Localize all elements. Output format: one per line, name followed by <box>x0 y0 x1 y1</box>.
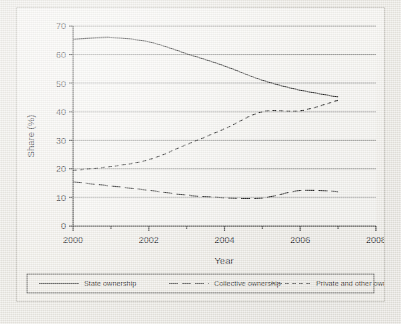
legend-label: Collective ownership <box>214 279 281 288</box>
y-tick-label: 40 <box>56 107 66 117</box>
y-axis-tick-labels: 010203040506070 <box>56 21 66 231</box>
plot-background <box>73 26 376 226</box>
x-axis-title: Year <box>214 255 233 266</box>
y-tick-label: 20 <box>56 164 66 174</box>
legend-label: Private and other ownerships <box>316 279 384 288</box>
x-tick-label: 2000 <box>63 235 83 245</box>
y-tick-label: 50 <box>56 79 66 89</box>
x-tick-label: 2008 <box>366 235 384 245</box>
y-axis-ticks <box>69 26 73 226</box>
x-tick-label: 2006 <box>290 235 310 245</box>
x-axis-ticks <box>73 226 376 231</box>
y-tick-label: 30 <box>56 136 66 146</box>
y-tick-label: 60 <box>56 50 66 60</box>
figure-frame: 010203040506070 20002002200420062008 Sha… <box>16 7 385 302</box>
x-tick-label: 2004 <box>214 235 234 245</box>
x-tick-label: 2002 <box>139 235 159 245</box>
line-chart: 010203040506070 20002002200420062008 Sha… <box>17 8 384 301</box>
y-tick-label: 70 <box>56 21 66 31</box>
y-axis-title: Share (%) <box>25 115 36 158</box>
x-axis-tick-labels: 20002002200420062008 <box>63 235 384 245</box>
y-tick-label: 0 <box>61 221 66 231</box>
legend-items: State ownershipCollective ownershipPriva… <box>39 279 384 288</box>
y-tick-label: 10 <box>56 193 66 203</box>
legend-label: State ownership <box>84 279 136 288</box>
